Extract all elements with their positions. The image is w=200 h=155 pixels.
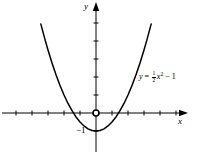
equation-minus: − (165, 73, 170, 81)
equation-equals: = (145, 73, 150, 81)
origin-dot (93, 110, 99, 116)
equation-fraction: 1 2 (152, 71, 157, 84)
y-axis-label: y (84, 2, 88, 11)
fraction-denominator: 2 (152, 78, 157, 84)
equation-constant: 1 (172, 73, 176, 81)
y-intercept-value-label: −1 (76, 126, 86, 135)
x-axis-label: x (178, 117, 182, 126)
y-axis-arrowhead (93, 2, 99, 11)
curve-equation-label: y = 1 2 x 2 − 1 (139, 71, 176, 84)
equation-lhs: y (139, 73, 143, 81)
equation-exponent: 2 (160, 72, 163, 78)
parabola-figure: y x −1 y = 1 2 x 2 − 1 (0, 0, 200, 155)
